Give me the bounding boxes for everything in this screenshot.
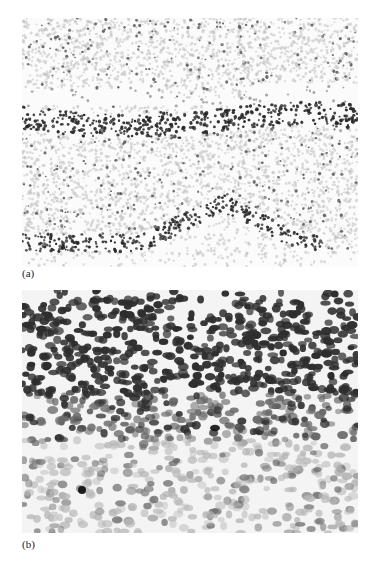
micrograph-b-image [22, 290, 358, 533]
panel-label-b: (b) [22, 538, 35, 550]
panel-label-a: (a) [22, 267, 34, 279]
micrograph-a-image [22, 18, 358, 267]
micrograph-panel-b [22, 290, 358, 533]
micrograph-panel-a [22, 18, 358, 267]
